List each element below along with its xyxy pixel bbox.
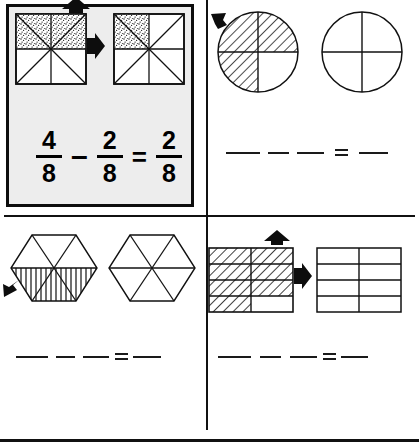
problem-rectangles-panel — [208, 217, 419, 430]
problem-circles-answer-row[interactable] — [226, 148, 388, 157]
fraction-minuend: 4 8 — [36, 127, 62, 186]
problem-circles-panel — [208, 0, 419, 215]
answer-blank[interactable] — [341, 356, 368, 358]
problem-rectangle-minuend — [208, 247, 294, 313]
worksheet-page: 4 8 – 2 8 = 2 8 — [0, 0, 419, 446]
frame-bottom-edge — [0, 439, 419, 442]
example-square-result — [113, 13, 185, 85]
difference-numerator: 2 — [159, 127, 179, 153]
problem-circle-blank — [320, 10, 404, 94]
minuend-numerator: 4 — [39, 127, 59, 153]
answer-blank[interactable] — [218, 356, 251, 358]
problem-hexagon-blank — [108, 229, 196, 307]
arrow-up-icon — [263, 230, 291, 245]
answer-blank[interactable] — [359, 152, 388, 154]
equals-sign — [323, 352, 336, 361]
subtrahend-denominator: 8 — [100, 160, 120, 186]
subtrahend-numerator: 2 — [100, 127, 120, 153]
fraction-bar — [97, 155, 123, 158]
answer-blank[interactable] — [133, 356, 161, 358]
arrow-up-icon — [61, 0, 91, 13]
equals-operator: = — [129, 144, 150, 170]
worked-example-panel: 4 8 – 2 8 = 2 8 — [0, 0, 206, 215]
fraction-bar — [36, 155, 62, 158]
problem-hexagons-answer-row[interactable] — [16, 352, 161, 361]
problem-rectangle-blank — [316, 247, 402, 313]
example-equation: 4 8 – 2 8 = 2 8 — [21, 127, 197, 186]
answer-blank[interactable] — [83, 356, 109, 358]
problem-hexagons-panel — [0, 217, 206, 430]
fraction-bar — [156, 155, 182, 158]
answer-blank[interactable] — [297, 152, 324, 154]
fraction-difference: 2 8 — [156, 127, 182, 186]
arrow-right-icon — [87, 33, 105, 59]
arrow-right-icon — [294, 263, 312, 289]
example-panel-box: 4 8 – 2 8 = 2 8 — [6, 4, 194, 207]
equals-sign — [335, 148, 348, 157]
minuend-denominator: 8 — [39, 160, 59, 186]
answer-blank[interactable] — [56, 356, 75, 358]
problem-rectangles-answer-row[interactable] — [218, 352, 368, 361]
problem-circle-minuend — [216, 10, 300, 94]
example-square-minuend — [15, 13, 87, 85]
minus-operator: – — [68, 141, 91, 171]
answer-blank[interactable] — [16, 356, 48, 358]
answer-blank[interactable] — [268, 152, 289, 154]
difference-denominator: 8 — [159, 160, 179, 186]
fraction-subtrahend: 2 8 — [97, 127, 123, 186]
equals-sign — [115, 352, 128, 361]
problem-hexagon-minuend — [10, 229, 98, 307]
answer-blank[interactable] — [260, 356, 281, 358]
answer-blank[interactable] — [226, 152, 260, 154]
answer-blank[interactable] — [290, 356, 317, 358]
